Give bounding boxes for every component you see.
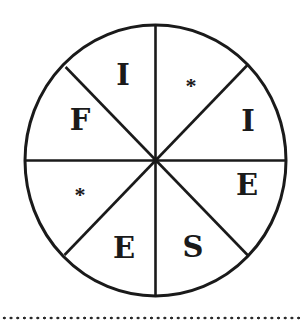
segment-right-lower: E [236, 168, 258, 202]
segment-top-right: * [186, 73, 197, 98]
segment-left-upper: F [70, 103, 91, 137]
wheel: * I E S E * F I [25, 25, 286, 296]
dotted-separator [0, 316, 303, 320]
letter-wheel-diagram: * I E S E * F I [0, 0, 303, 322]
segment-left-lower: * [75, 182, 86, 207]
wheel-hub [153, 158, 159, 164]
segment-bottom-left: E [113, 231, 135, 265]
segment-bottom-right: S [183, 230, 204, 264]
segment-right-upper: I [241, 104, 255, 138]
segment-top-left: I [116, 58, 130, 92]
